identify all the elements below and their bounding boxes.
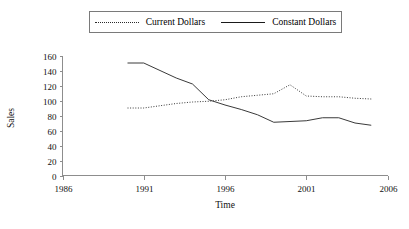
series-line-current-dollars (128, 85, 372, 108)
y-tick-label: 160 (43, 52, 57, 62)
chart-page: Current Dollars Constant Dollars 0204060… (0, 0, 409, 229)
y-axis: 020406080100120140160 (43, 52, 63, 182)
y-tick-label: 40 (48, 142, 58, 152)
series-line-constant-dollars (128, 63, 372, 125)
x-axis-title: Time (215, 200, 235, 210)
x-axis-ticks: 19861991199620012006 (55, 176, 399, 194)
y-tick-label: 120 (43, 82, 57, 92)
y-tick-label: 80 (48, 112, 58, 122)
x-tick-label: 1991 (136, 184, 154, 194)
y-tick-label: 140 (43, 67, 57, 77)
x-tick-label: 1996 (217, 184, 236, 194)
x-axis: 19861991199620012006 (55, 176, 399, 194)
y-tick-label: 100 (43, 97, 57, 107)
y-axis-title: Sales (6, 108, 16, 128)
line-chart-plot: 020406080100120140160 198619911996200120… (0, 0, 409, 229)
y-tick-label: 60 (48, 127, 58, 137)
y-tick-label: 0 (52, 172, 57, 182)
x-tick-label: 1986 (55, 184, 74, 194)
y-tick-label: 20 (48, 157, 58, 167)
data-series-layer (128, 63, 372, 125)
y-axis-ticks: 020406080100120140160 (43, 52, 63, 182)
x-tick-label: 2006 (380, 184, 399, 194)
x-tick-label: 2001 (298, 184, 316, 194)
